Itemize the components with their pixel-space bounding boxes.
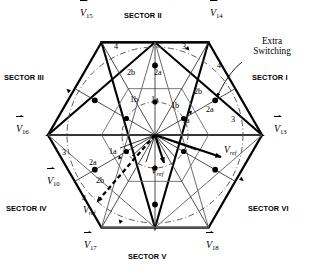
region-label-2b-sector-1: 2b bbox=[194, 88, 202, 96]
vertex-label-v16: V16 bbox=[16, 124, 29, 136]
sector-label-6: SECTOR VI bbox=[248, 205, 289, 212]
region-label-1b-sector-2: 1b bbox=[130, 96, 138, 104]
vertex-label-v14: V14 bbox=[210, 8, 223, 20]
region-label-2a-sector-4: 2a bbox=[89, 159, 97, 167]
sector-label-2: SECTOR II bbox=[124, 12, 162, 19]
region-label-4-sector-2: 4 bbox=[114, 43, 118, 51]
sector-label-5: SECTOR V bbox=[128, 253, 166, 260]
region-label-3-sector-2: 3 bbox=[182, 43, 186, 51]
region-label-1a-sector-4: 1a bbox=[109, 148, 117, 156]
svm-hexagon-diagram: SECTOR I SECTOR II SECTOR III SECTOR IV … bbox=[0, 0, 309, 275]
extra-switching-annotation: Extra Switching bbox=[240, 36, 304, 57]
region-label-1b-sector-1: 1b bbox=[171, 102, 179, 110]
sector-label-4: SECTOR IV bbox=[6, 205, 47, 212]
region-label-3-sector-1: 3 bbox=[231, 116, 235, 124]
region-label-2a-sector-1: 2a bbox=[206, 106, 214, 114]
region-label-3-sector-4: 3 bbox=[62, 149, 66, 157]
region-label-4-sector-4: 4 bbox=[82, 195, 86, 203]
vref-label-sector-v: Vref bbox=[151, 167, 163, 177]
vertex-label-v17: V17 bbox=[84, 240, 97, 252]
vertex-label-v15: V15 bbox=[80, 8, 93, 20]
extra-switching-line1: Extra bbox=[240, 36, 304, 46]
region-label-2a-sector-2: 2a bbox=[154, 69, 162, 77]
sector-label-3: SECTOR III bbox=[4, 74, 44, 81]
region-label-1a-sector-1: 1a bbox=[182, 117, 190, 125]
region-label-2b-sector-4: 2b bbox=[96, 177, 104, 185]
region-label-1a-sector-2: 1a bbox=[151, 96, 159, 104]
vref-label-sector-iv: Vref bbox=[83, 206, 95, 216]
region-label-4-sector-1: 4 bbox=[217, 62, 221, 70]
vertex-label-v10: V10 bbox=[47, 176, 60, 188]
vertex-label-v18: V18 bbox=[206, 240, 219, 252]
vertex-label-v13: V13 bbox=[274, 124, 287, 136]
vref-arrow-sector-iv bbox=[97, 135, 155, 202]
extra-switching-line2: Switching bbox=[240, 46, 304, 56]
vref-label-sector-vi: Vref bbox=[224, 146, 236, 156]
sector-label-1: SECTOR I bbox=[252, 74, 288, 81]
region-label-2b-sector-2: 2b bbox=[127, 69, 135, 77]
